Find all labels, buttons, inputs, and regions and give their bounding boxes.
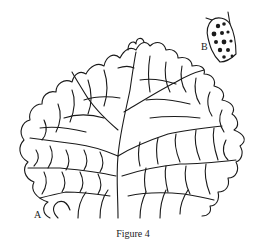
panel-label-b: B xyxy=(201,41,208,52)
figure-4: A B Figure 4 xyxy=(0,0,266,245)
figure-caption: Figure 4 xyxy=(0,228,266,239)
panel-label-a: A xyxy=(34,209,41,220)
